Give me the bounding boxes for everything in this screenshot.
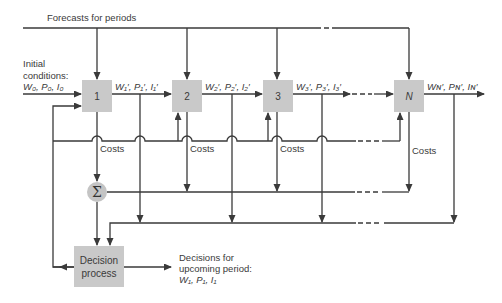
period-3-output: W₃′, P₃′, I₃′: [296, 81, 341, 93]
initial-conditions-line1: Initial: [23, 58, 45, 70]
costs-label-1: Costs: [100, 143, 124, 155]
period-2-output: W₂′, P₂′, I₂′: [205, 81, 250, 93]
costs-label-2: Costs: [190, 143, 214, 155]
decisions-output-values: W₁, P₁, I₁: [179, 274, 217, 286]
initial-conditions-values: W₀, P₀, I₀: [23, 81, 64, 93]
period-box-3: 3: [263, 80, 293, 112]
period-n-output: Wɴ′, Pɴ′, Iɴ′: [427, 81, 477, 93]
period-box-1: 1: [82, 80, 112, 112]
period-box-3-label: 3: [275, 91, 281, 102]
period-box-n: N: [394, 80, 424, 112]
costs-label-3: Costs: [280, 143, 304, 155]
decision-process-line2: process: [80, 267, 118, 280]
sum-node: Σ: [87, 182, 107, 202]
forecast-label: Forecasts for periods: [47, 12, 136, 24]
period-box-1-label: 1: [94, 91, 100, 102]
period-1-output: W₁′, P₁′, I₁′: [115, 81, 158, 93]
decision-process-box: Decision process: [74, 246, 124, 287]
period-box-n-label: N: [405, 91, 412, 102]
decision-process-line1: Decision: [80, 254, 118, 267]
period-box-2: 2: [172, 80, 202, 112]
costs-label-n: Costs: [412, 145, 436, 157]
period-box-2-label: 2: [184, 91, 190, 102]
sigma-icon: Σ: [92, 184, 102, 200]
